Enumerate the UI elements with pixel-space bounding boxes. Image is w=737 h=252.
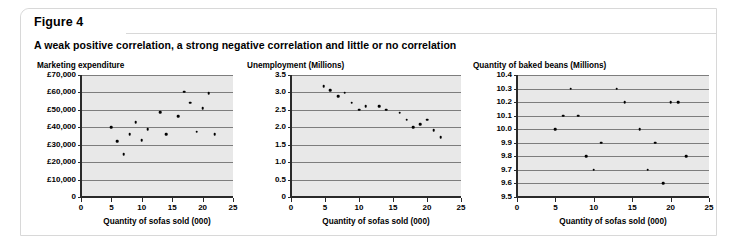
y-tick-label: 9.6 [481,179,512,187]
y-tick-label: 2.0 [259,123,286,131]
x-tick-mark [233,198,234,202]
data-point [439,136,442,139]
y-tick-mark [288,180,291,181]
y-tick-label: 3.5 [259,71,286,79]
x-tick-mark [393,198,394,202]
data-point [207,92,210,95]
y-tick-label: 1.5 [259,141,286,149]
data-point [585,155,588,158]
data-point [654,141,657,144]
gridline [517,75,709,76]
y-tick-mark [514,156,517,157]
data-point [677,101,680,104]
x-tick-label: 20 [423,204,432,212]
figure-tab-label: Figure 4 [21,15,83,29]
plot-area [517,75,709,197]
y-tick-mark [514,129,517,130]
y-tick-mark [288,92,291,93]
data-point [159,111,162,114]
data-point [329,89,332,92]
data-point [128,133,131,136]
gridline [517,116,709,117]
y-tick-label: 0 [29,193,76,201]
y-axis-line [516,75,518,197]
x-axis-title: Quantity of sofas sold (000) [81,217,233,226]
x-tick-mark [172,198,173,202]
x-tick-mark [427,198,428,202]
charts-row: Marketing expenditure0£10,000£20,000£30,… [21,61,718,237]
y-tick-label: 10.1 [481,112,512,120]
x-tick-mark [142,198,143,202]
x-tick-label: 0 [79,204,83,212]
figure-page: Figure 4 A weak positive correlation, a … [0,0,737,252]
data-point [616,87,619,90]
y-tick-label: 1.0 [259,158,286,166]
gridline [517,102,709,103]
gridline [81,180,233,181]
data-point [426,118,429,121]
y-tick-label: £50,000 [29,106,76,114]
y-tick-mark [78,162,81,163]
data-point [343,91,346,94]
y-tick-mark [288,75,291,76]
data-point [669,101,672,104]
figure-tab: Figure 4 [21,9,126,34]
y-tick-mark [288,110,291,111]
data-point [201,107,204,110]
scatter-chart-1: Marketing expenditure0£10,000£20,000£30,… [29,61,245,237]
y-tick-mark [78,127,81,128]
data-point [350,102,353,105]
y-tick-label: 9.5 [481,193,512,201]
y-tick-mark [514,143,517,144]
data-point [405,118,408,121]
x-tick-label: 15 [628,204,637,212]
gridline [291,75,461,76]
y-tick-label: £70,000 [29,71,76,79]
gridline [81,127,233,128]
y-tick-mark [78,145,81,146]
y-tick-label: 9.9 [481,139,512,147]
chart-title: Unemployment (Millions) [247,61,344,70]
y-tick-mark [514,116,517,117]
gridline [291,162,461,163]
data-point [662,182,665,185]
data-point [365,105,368,108]
x-tick-mark [81,198,82,202]
y-tick-label: £60,000 [29,88,76,96]
y-tick-label: 10.0 [481,125,512,133]
x-axis-line [290,196,461,198]
scatter-chart-3: Quantity of baked beans (Millions)9.59.6… [481,61,721,237]
y-tick-label: 10.4 [481,71,512,79]
gridline [81,110,233,111]
gridline [517,170,709,171]
x-tick-mark [632,198,633,202]
data-point [134,121,137,124]
x-tick-label: 25 [457,204,466,212]
gridline [81,162,233,163]
y-tick-mark [78,110,81,111]
gridline [517,129,709,130]
x-tick-label: 0 [515,204,519,212]
tab-divider [126,33,716,34]
x-tick-label: 10 [589,204,598,212]
x-tick-label: 10 [355,204,364,212]
data-point [110,126,113,129]
data-point [623,101,626,104]
data-point [122,153,125,156]
y-tick-mark [78,180,81,181]
data-point [177,115,180,118]
gridline [291,92,461,93]
data-point [147,128,150,131]
x-tick-mark [671,198,672,202]
y-tick-label: £30,000 [29,141,76,149]
data-point [639,128,642,131]
y-tick-label: £20,000 [29,158,76,166]
data-point [554,128,557,131]
x-tick-label: 15 [168,204,177,212]
gridline [517,143,709,144]
data-point [141,139,144,142]
x-tick-mark [517,198,518,202]
x-tick-label: 5 [109,204,113,212]
chart-title: Quantity of baked beans (Millions) [473,61,606,70]
x-tick-mark [111,198,112,202]
